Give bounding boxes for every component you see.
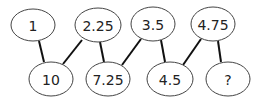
node-n5: 10 xyxy=(29,62,73,96)
connector-line-n4-n8 xyxy=(218,41,221,62)
number-nodes: 12.253.54.75107.254.5? xyxy=(11,7,250,96)
number-puzzle-diagram: 12.253.54.75107.254.5? xyxy=(0,0,259,102)
connector-line-n2-n5 xyxy=(63,40,82,64)
node-n6: 7.25 xyxy=(86,62,130,96)
node-n7: 4.5 xyxy=(147,62,193,96)
node-n1: 1 xyxy=(11,9,55,41)
node-n2: 2.25 xyxy=(75,8,121,42)
node-label: 4.5 xyxy=(159,72,181,88)
connector-line-n3-n6 xyxy=(122,39,141,65)
node-n4: 4.75 xyxy=(191,7,235,41)
node-n8: ? xyxy=(206,62,250,96)
node-label: 10 xyxy=(42,72,60,88)
node-label: 2.25 xyxy=(82,18,113,34)
node-label: 4.75 xyxy=(197,17,228,33)
node-label: 1 xyxy=(29,18,38,34)
node-label: 7.25 xyxy=(92,72,123,88)
node-label: 3.5 xyxy=(142,17,164,33)
connector-lines xyxy=(39,39,221,65)
node-label: ? xyxy=(224,72,231,88)
connector-line-n1-n5 xyxy=(39,41,44,62)
connector-line-n3-n7 xyxy=(161,40,165,62)
connector-line-n4-n7 xyxy=(183,39,201,65)
node-n3: 3.5 xyxy=(131,7,175,41)
connector-line-n2-n6 xyxy=(100,42,104,62)
